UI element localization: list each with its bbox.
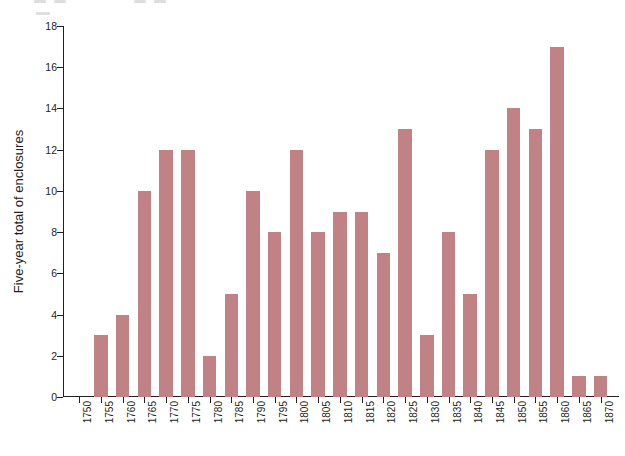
bar bbox=[485, 150, 498, 397]
y-axis-line bbox=[63, 26, 64, 397]
y-axis-tick-label: 14 bbox=[31, 103, 57, 113]
bar bbox=[203, 356, 216, 397]
bar bbox=[529, 129, 542, 397]
y-axis-tick bbox=[57, 67, 63, 68]
x-axis-tick bbox=[123, 397, 124, 403]
x-axis-tick-label: 1835 bbox=[453, 401, 463, 423]
bar bbox=[355, 212, 368, 398]
x-axis-tick bbox=[231, 397, 232, 403]
bar bbox=[290, 150, 303, 397]
x-axis-tick bbox=[579, 397, 580, 403]
x-axis-tick bbox=[144, 397, 145, 403]
x-axis-tick bbox=[210, 397, 211, 403]
x-axis-tick-label: 1755 bbox=[105, 401, 115, 423]
x-axis-tick-label: 1780 bbox=[214, 401, 224, 423]
x-axis-tick bbox=[101, 397, 102, 403]
x-axis-tick-label: 1765 bbox=[148, 401, 158, 423]
x-axis-tick-label: 1800 bbox=[300, 401, 310, 423]
bar bbox=[377, 253, 390, 397]
bar bbox=[594, 376, 607, 397]
y-axis-tick bbox=[57, 397, 63, 398]
x-axis-tick bbox=[275, 397, 276, 403]
bar bbox=[116, 315, 129, 397]
x-axis-tick-label: 1825 bbox=[409, 401, 419, 423]
plot-area: 024681012141618 175017551760176517701775… bbox=[63, 26, 619, 397]
x-axis-tick-label: 1860 bbox=[561, 401, 571, 423]
x-axis-tick-label: 1820 bbox=[387, 401, 397, 423]
bar bbox=[246, 191, 259, 397]
bar bbox=[398, 129, 411, 397]
bar bbox=[420, 335, 433, 397]
y-axis-tick-label: 8 bbox=[31, 227, 57, 237]
x-axis-tick bbox=[470, 397, 471, 403]
x-axis-tick-label: 1845 bbox=[496, 401, 506, 423]
y-axis-tick bbox=[57, 315, 63, 316]
x-axis-tick-label: 1770 bbox=[170, 401, 180, 423]
y-axis-tick-label: 0 bbox=[31, 392, 57, 402]
y-axis-tick bbox=[57, 273, 63, 274]
x-axis-tick-label: 1805 bbox=[322, 401, 332, 423]
x-axis-tick-label: 1775 bbox=[192, 401, 202, 423]
x-axis-tick bbox=[253, 397, 254, 403]
y-axis-tick-label: 2 bbox=[31, 351, 57, 361]
x-axis-tick bbox=[514, 397, 515, 403]
x-axis-tick bbox=[405, 397, 406, 403]
x-axis-tick bbox=[535, 397, 536, 403]
y-axis-tick bbox=[57, 356, 63, 357]
x-axis-tick bbox=[296, 397, 297, 403]
x-axis-tick-label: 1815 bbox=[366, 401, 376, 423]
bar-chart-figure: Five-year total of enclosures 0246810121… bbox=[0, 0, 625, 456]
x-axis-tick-label: 1850 bbox=[518, 401, 528, 423]
x-axis-tick bbox=[449, 397, 450, 403]
x-axis-tick-label: 1790 bbox=[257, 401, 267, 423]
y-axis-title: Five-year total of enclosures bbox=[10, 26, 28, 397]
x-axis-tick-label: 1855 bbox=[539, 401, 549, 423]
x-axis-tick bbox=[557, 397, 558, 403]
x-axis-tick bbox=[340, 397, 341, 403]
y-axis-tick bbox=[57, 150, 63, 151]
y-axis-tick-label: 10 bbox=[31, 186, 57, 196]
x-axis-tick-label: 1830 bbox=[431, 401, 441, 423]
x-axis-tick bbox=[492, 397, 493, 403]
y-axis-tick bbox=[57, 191, 63, 192]
x-axis-tick bbox=[601, 397, 602, 403]
bar bbox=[442, 232, 455, 397]
bar bbox=[138, 191, 151, 397]
x-axis-tick-label: 1840 bbox=[474, 401, 484, 423]
x-axis-tick-label: 1785 bbox=[235, 401, 245, 423]
y-axis-tick-label: 6 bbox=[31, 268, 57, 278]
x-axis-tick bbox=[318, 397, 319, 403]
bar bbox=[94, 335, 107, 397]
x-axis-tick-label: 1795 bbox=[279, 401, 289, 423]
x-axis-tick bbox=[188, 397, 189, 403]
bar bbox=[550, 47, 563, 397]
bar bbox=[507, 108, 520, 397]
bar bbox=[333, 212, 346, 398]
x-axis-tick-label: 1750 bbox=[83, 401, 93, 423]
scan-artifact bbox=[30, 0, 210, 18]
x-axis-tick-label: 1865 bbox=[583, 401, 593, 423]
x-axis-tick bbox=[166, 397, 167, 403]
y-axis-tick bbox=[57, 26, 63, 27]
bar bbox=[181, 150, 194, 397]
bar bbox=[268, 232, 281, 397]
y-axis-title-label: Five-year total of enclosures bbox=[12, 130, 27, 293]
y-axis-tick bbox=[57, 108, 63, 109]
x-axis-tick-label: 1810 bbox=[344, 401, 354, 423]
x-axis-tick bbox=[427, 397, 428, 403]
x-axis-tick bbox=[383, 397, 384, 403]
y-axis-tick-label: 4 bbox=[31, 310, 57, 320]
y-axis-tick bbox=[57, 232, 63, 233]
bar bbox=[572, 376, 585, 397]
bar bbox=[225, 294, 238, 397]
x-axis-tick bbox=[362, 397, 363, 403]
y-axis-tick-label: 12 bbox=[31, 145, 57, 155]
bar bbox=[463, 294, 476, 397]
x-axis-tick-label: 1760 bbox=[127, 401, 137, 423]
bar bbox=[159, 150, 172, 397]
y-axis-tick-label: 18 bbox=[31, 21, 57, 31]
x-axis-tick-label: 1870 bbox=[605, 401, 615, 423]
y-axis-tick-label: 16 bbox=[31, 62, 57, 72]
x-axis-tick bbox=[79, 397, 80, 403]
bar bbox=[311, 232, 324, 397]
